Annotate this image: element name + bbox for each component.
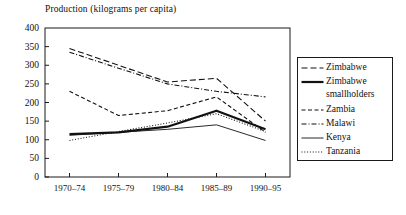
legend-label: Zimbabwe — [326, 63, 367, 73]
legend-swatch-icon — [301, 62, 324, 74]
legend-swatch-icon — [301, 104, 324, 116]
legend-swatch-icon — [301, 118, 324, 130]
legend-item-tanzania[interactable]: Tanzania — [298, 145, 394, 159]
legend-label: Kenya — [326, 133, 351, 143]
x-tick-label-0: 1970–74 — [54, 183, 86, 193]
legend-label: Zambia — [326, 105, 355, 115]
legend-swatch-icon — [301, 146, 324, 158]
x-tick-label-3: 1985–89 — [201, 183, 233, 193]
legend-label: Tanzania — [326, 147, 360, 157]
legend-item-malawi[interactable]: Malawi — [298, 117, 394, 131]
legend-label: Malawi — [326, 119, 355, 129]
legend-label: Zimbabwe — [326, 77, 367, 87]
legend-label-continuation: smallholders — [326, 89, 375, 99]
chart-legend: ZimbabweZimbabwesmallholdersZambiaMalawi… — [297, 57, 393, 161]
x-tick-label-4: 1990–95 — [250, 183, 282, 193]
legend-item-kenya[interactable]: Kenya — [298, 131, 394, 145]
chart-figure: Production (kilograms per capita) 050100… — [0, 0, 406, 215]
legend-item-zimbabwe-smallholders[interactable]: Zimbabwe — [298, 75, 394, 89]
legend-swatch-icon — [301, 76, 324, 88]
x-tick-label-2: 1980–84 — [152, 183, 184, 193]
legend-item-zambia[interactable]: Zambia — [298, 103, 394, 117]
x-tick-label-1: 1975–79 — [103, 183, 135, 193]
legend-item-zimbabwe[interactable]: Zimbabwe — [298, 61, 394, 75]
legend-swatch-icon — [301, 132, 324, 144]
